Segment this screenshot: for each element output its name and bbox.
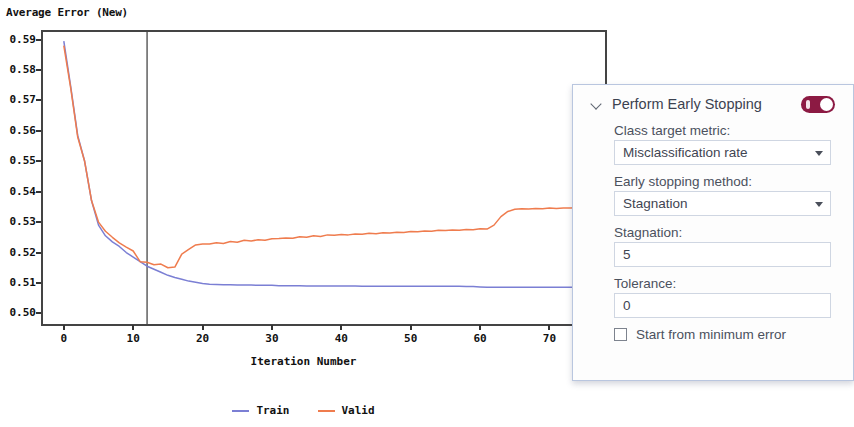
start-from-minimum-error-row[interactable]: Start from minimum error	[614, 327, 853, 342]
field-label: Tolerance:	[614, 276, 853, 291]
field-value: 5	[623, 247, 631, 262]
series-line-valid	[64, 46, 584, 268]
y-axis-tick-label: 0.54	[10, 185, 37, 198]
x-axis-tick-mark	[202, 325, 204, 330]
chart-title: Average Error (New)	[6, 6, 128, 19]
x-axis-tick-mark	[548, 325, 550, 330]
field-value: 0	[623, 298, 631, 313]
x-axis-tick-mark	[132, 325, 134, 330]
field-value: Misclassification rate	[623, 145, 748, 160]
chevron-down-icon[interactable]	[591, 98, 603, 110]
panel-body: Class target metric:Misclassification ra…	[573, 123, 853, 342]
x-axis-tick-label: 30	[252, 332, 292, 345]
dropdown-field[interactable]: Misclassification rate	[614, 140, 831, 165]
x-axis-tick-label: 20	[183, 332, 223, 345]
field-label: Class target metric:	[614, 123, 853, 138]
chevron-down-icon[interactable]	[815, 151, 823, 156]
text-field[interactable]: 5	[614, 242, 831, 267]
x-axis-tick-label: 10	[113, 332, 153, 345]
legend-label: Valid	[342, 404, 375, 417]
chevron-down-icon[interactable]	[815, 202, 823, 207]
legend-item: Valid	[318, 404, 375, 417]
start-from-minimum-error-label: Start from minimum error	[636, 327, 786, 342]
legend-label: Train	[256, 404, 289, 417]
legend-item: Train	[232, 404, 289, 417]
y-axis-tick-label: 0.52	[10, 246, 37, 259]
early-stopping-panel: Perform Early Stopping Class target metr…	[572, 84, 854, 381]
x-axis-tick-label: 50	[391, 332, 431, 345]
dropdown-field[interactable]: Stagnation	[614, 191, 831, 216]
x-axis-tick-mark	[63, 325, 65, 330]
y-axis-tick-label: 0.56	[10, 124, 37, 137]
app-root: Average Error (New) 0.500.510.520.530.54…	[0, 0, 854, 427]
panel-title: Perform Early Stopping	[612, 96, 762, 112]
field-label: Early stopping method:	[614, 174, 853, 189]
y-axis-tick-label: 0.50	[10, 306, 37, 319]
y-axis-tick-label: 0.51	[10, 276, 37, 289]
text-field[interactable]: 0	[614, 293, 831, 318]
y-axis-tick-label: 0.55	[10, 154, 37, 167]
x-axis-tick-label: 60	[460, 332, 500, 345]
x-axis-tick-mark	[410, 325, 412, 330]
field-label: Stagnation:	[614, 225, 853, 240]
x-axis-tick-mark	[340, 325, 342, 330]
series-line-train	[64, 41, 584, 287]
x-axis-label: Iteration Number	[0, 355, 607, 368]
panel-header[interactable]: Perform Early Stopping	[573, 85, 853, 123]
plot-area	[41, 30, 607, 326]
legend-swatch-icon	[318, 410, 335, 412]
x-axis-tick-label: 0	[44, 332, 84, 345]
y-axis-tick-label: 0.59	[10, 33, 37, 46]
y-axis-tick-label: 0.57	[10, 93, 37, 106]
x-axis-tick-mark	[271, 325, 273, 330]
y-axis-tick-label: 0.58	[10, 63, 37, 76]
x-axis-tick-mark	[479, 325, 481, 330]
start-from-minimum-error-checkbox[interactable]	[614, 328, 627, 341]
early-stopping-toggle[interactable]	[801, 96, 835, 113]
y-axis-tick-label: 0.53	[10, 215, 37, 228]
x-axis-tick-label: 70	[529, 332, 569, 345]
field-value: Stagnation	[623, 196, 688, 211]
plot-lines	[43, 32, 605, 324]
x-axis-tick-label: 40	[321, 332, 361, 345]
legend-swatch-icon	[232, 410, 249, 412]
chart-legend: TrainValid	[0, 404, 607, 417]
